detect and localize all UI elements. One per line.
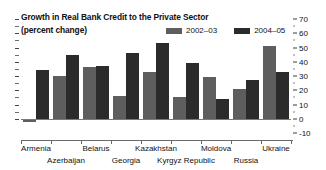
bar-ukraine-2002-03 xyxy=(263,46,276,119)
y-axis-left-tick xyxy=(15,19,19,20)
x-axis-tick xyxy=(111,140,112,144)
y-axis-left-tick xyxy=(15,62,19,63)
x-axis-tick xyxy=(21,140,22,144)
zero-baseline xyxy=(21,119,291,120)
bars-layer xyxy=(21,19,291,133)
chart-figure: Growth in Real Bank Credit to the Privat… xyxy=(0,0,326,170)
y-axis-left-tick xyxy=(15,48,19,49)
y-minor-tick-mark xyxy=(293,26,295,27)
bar-ukraine-2004-05 xyxy=(276,72,289,119)
x-axis-line xyxy=(21,140,293,141)
bar-moldova-2004-05 xyxy=(216,99,229,119)
bar-belarus-2002-03 xyxy=(83,67,96,118)
y-tick-label: 60 xyxy=(299,29,308,38)
y-axis-left-tick xyxy=(15,97,19,98)
y-minor-tick-mark xyxy=(293,83,295,84)
y-axis-left-tick xyxy=(15,105,19,106)
x-label-moldova: Moldova xyxy=(201,144,231,153)
y-axis-tick: 70 xyxy=(293,15,308,24)
x-label-azerbaijan: Azerbaijan xyxy=(47,156,85,165)
y-axis-left-tick xyxy=(15,26,19,27)
bar-belarus-2004-05 xyxy=(96,66,109,119)
y-tick-label: 30 xyxy=(299,72,308,81)
y-tick-mark xyxy=(293,90,297,91)
bar-russia-2002-03 xyxy=(233,89,246,119)
y-tick-label: 50 xyxy=(299,43,308,52)
y-tick-mark xyxy=(293,47,297,48)
y-axis-left-tick xyxy=(15,33,19,34)
bar-kyrgyz-republic-2002-03 xyxy=(173,97,186,118)
x-axis-tick xyxy=(51,140,52,144)
y-tick-label: 20 xyxy=(299,86,308,95)
y-axis-left-tick xyxy=(15,69,19,70)
x-label-kazakhstan: Kazakhstan xyxy=(135,144,177,153)
bar-kazakhstan-2004-05 xyxy=(156,43,169,119)
bar-azerbaijan-2002-03 xyxy=(53,76,66,119)
y-tick-label: 10 xyxy=(299,100,308,109)
y-tick-mark xyxy=(293,118,297,119)
bar-armenia-2004-05 xyxy=(36,70,49,118)
x-axis-tick xyxy=(291,140,292,144)
bar-kyrgyz-republic-2004-05 xyxy=(186,63,199,119)
y-minor-tick-mark xyxy=(293,54,295,55)
x-axis-tick xyxy=(261,140,262,144)
y-tick-mark xyxy=(293,19,297,20)
bar-georgia-2004-05 xyxy=(126,53,139,119)
y-minor-tick-mark xyxy=(293,97,295,98)
y-axis-left-ticks xyxy=(15,19,19,133)
y-tick-label: 70 xyxy=(299,15,308,24)
x-axis-tick xyxy=(141,140,142,144)
y-axis-left-tick xyxy=(15,55,19,56)
plot-area xyxy=(21,19,291,133)
bar-kazakhstan-2002-03 xyxy=(143,72,156,119)
x-axis-tick xyxy=(231,140,232,144)
y-axis-left-tick xyxy=(15,40,19,41)
x-axis-tick xyxy=(201,140,202,144)
y-tick-mark xyxy=(293,133,297,134)
x-axis-tick xyxy=(81,140,82,144)
y-axis-left-tick xyxy=(15,90,19,91)
y-tick-label: 40 xyxy=(299,57,308,66)
x-label-russia: Russia xyxy=(234,156,258,165)
y-axis-left-tick xyxy=(15,112,19,113)
y-tick-label: 0 xyxy=(299,114,303,123)
bar-russia-2004-05 xyxy=(246,80,259,118)
x-label-georgia: Georgia xyxy=(112,156,140,165)
x-label-belarus: Belarus xyxy=(82,144,109,153)
x-label-kyrgyz-republic: Kyrgyz Republic xyxy=(157,156,215,165)
x-axis-category-labels: ArmeniaAzerbaijanBelarusGeorgiaKazakhsta… xyxy=(0,144,326,170)
bar-moldova-2002-03 xyxy=(203,77,216,118)
x-label-ukraine: Ukraine xyxy=(262,144,290,153)
y-tick-mark xyxy=(293,61,297,62)
y-minor-tick-mark xyxy=(293,40,295,41)
y-minor-tick-mark xyxy=(293,111,295,112)
y-axis-left-tick xyxy=(15,76,19,77)
bar-azerbaijan-2004-05 xyxy=(66,55,79,119)
x-label-armenia: Armenia xyxy=(21,144,51,153)
bar-georgia-2002-03 xyxy=(113,96,126,119)
y-tick-mark xyxy=(293,76,297,77)
y-minor-tick-mark xyxy=(293,68,295,69)
y-axis-left-tick xyxy=(15,119,19,120)
y-axis-right: -10010203040506070 xyxy=(293,19,326,144)
y-axis-left-tick xyxy=(15,83,19,84)
y-tick-mark xyxy=(293,104,297,105)
y-minor-tick-mark xyxy=(293,125,295,126)
y-tick-label: -10 xyxy=(299,129,311,138)
y-tick-mark xyxy=(293,33,297,34)
x-axis-tick xyxy=(171,140,172,144)
